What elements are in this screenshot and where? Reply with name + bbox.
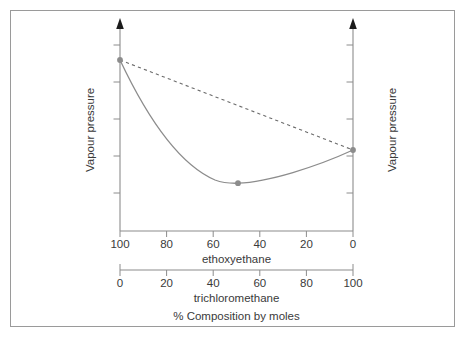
bottom-x-axis bbox=[120, 264, 353, 276]
right-y-axis bbox=[347, 18, 357, 231]
bottom-tick-label-0: 0 bbox=[117, 277, 123, 289]
top-x-axis bbox=[120, 231, 353, 237]
ideal-raoult-dashed-line bbox=[120, 60, 353, 150]
bottom-tick-label-20: 20 bbox=[160, 277, 173, 289]
bottom-tick-label-60: 60 bbox=[253, 277, 266, 289]
chart-page: Vapour pressure Vapour pressure 100 80 6… bbox=[0, 0, 464, 337]
bottom-tick-label-80: 80 bbox=[300, 277, 313, 289]
top-tick-label-0: 0 bbox=[350, 238, 356, 250]
top-tick-label-80: 80 bbox=[160, 238, 173, 250]
top-tick-label-40: 40 bbox=[253, 238, 266, 250]
chart-caption: % Composition by moles bbox=[173, 310, 300, 322]
bottom-axis-title: trichloromethane bbox=[194, 292, 280, 304]
top-tick-label-100: 100 bbox=[110, 238, 129, 250]
pure-ethoxyethane-point bbox=[117, 57, 123, 63]
left-axis-title: Vapour pressure bbox=[84, 88, 96, 172]
top-tick-label-20: 20 bbox=[300, 238, 313, 250]
azeotrope-minimum-point bbox=[235, 180, 241, 186]
top-tick-label-60: 60 bbox=[207, 238, 220, 250]
right-axis-title: Vapour pressure bbox=[386, 88, 398, 172]
bottom-tick-label-100: 100 bbox=[343, 277, 362, 289]
bottom-tick-label-40: 40 bbox=[207, 277, 220, 289]
left-y-axis bbox=[114, 18, 124, 231]
pure-trichloromethane-point bbox=[350, 147, 356, 153]
vapour-pressure-curve bbox=[120, 60, 353, 183]
top-axis-title: ethoxyethane bbox=[202, 253, 271, 265]
